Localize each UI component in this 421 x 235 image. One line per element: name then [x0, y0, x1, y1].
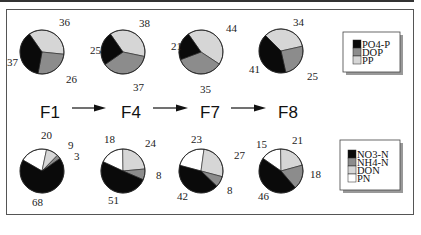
no3-n-swatch	[348, 150, 356, 158]
f4-don-label: 24	[145, 137, 157, 149]
f7-dop-label: 35	[200, 83, 212, 95]
pie-nitrogen-f1	[20, 149, 64, 193]
label-f8: F8	[278, 103, 298, 122]
f8-pp-label: 34	[293, 16, 305, 28]
f7-pp-label: 44	[226, 22, 238, 34]
f1-pp-label: 36	[59, 16, 71, 28]
f4-po4-label: 25	[90, 44, 102, 56]
f8-dop-label: 25	[307, 70, 319, 82]
f7-don-label: 27	[234, 149, 246, 161]
f7-no3-label: 42	[177, 190, 188, 202]
right-arrow-icon	[153, 105, 188, 112]
f7-po4-label: 21	[171, 40, 182, 52]
pie-nitrogen-f7	[179, 149, 223, 193]
pie-phosphorus-f4	[101, 30, 145, 74]
f4-dop-label: 37	[133, 81, 145, 93]
label-f1: F1	[40, 103, 60, 122]
nh4-n-swatch	[348, 158, 356, 166]
label-f7: F7	[200, 103, 220, 122]
f1-dop-label: 26	[66, 73, 78, 85]
f1-po4-label: 37	[7, 56, 19, 68]
pie-figure: 36 37 26 38 25 37 44 21 35 34 41 25 F1 F…	[0, 0, 421, 235]
f4-pp-label: 38	[139, 17, 151, 29]
f7-nh4-label: 8	[227, 184, 233, 196]
pie-nitrogen-f8	[259, 149, 303, 193]
slice-dop	[38, 52, 64, 74]
sequence-row: F1 F4 F7 F8	[40, 103, 298, 122]
legend-pp: PP	[362, 55, 374, 66]
f1-nh4-label: 3	[74, 150, 80, 162]
pn-swatch	[348, 174, 356, 182]
pie-phosphorus-f7	[179, 30, 223, 74]
f8-no3-label: 46	[258, 190, 270, 202]
pie-nitrogen-f4	[101, 149, 145, 193]
right-arrow-icon	[72, 105, 106, 112]
f8-pn-label: 15	[256, 138, 268, 150]
legend-nitrogen: NO3-N NH4-N DON PN	[340, 140, 403, 193]
f7-pn-label: 23	[191, 133, 203, 145]
f4-pn-label: 18	[104, 133, 116, 145]
f4-nh4-label: 8	[156, 169, 162, 181]
f4-no3-label: 51	[108, 194, 119, 206]
f8-don-label: 21	[292, 134, 303, 146]
right-arrow-icon	[231, 105, 266, 112]
label-f4: F4	[121, 103, 141, 122]
legend-pn: PN	[357, 173, 371, 184]
f1-no3-label: 68	[32, 196, 44, 208]
f1-pn-label: 20	[41, 129, 53, 141]
pie-phosphorus-f1	[20, 30, 64, 74]
f8-nh4-label: 18	[310, 168, 322, 180]
pp-swatch	[353, 56, 361, 64]
legend-phosphorus: PO4-P DOP PP	[343, 32, 403, 75]
dop-swatch	[353, 48, 361, 56]
pie-phosphorus-f8	[259, 29, 303, 73]
don-swatch	[348, 166, 356, 174]
po4-p-swatch	[353, 40, 361, 48]
f8-po4-label: 41	[249, 63, 260, 75]
